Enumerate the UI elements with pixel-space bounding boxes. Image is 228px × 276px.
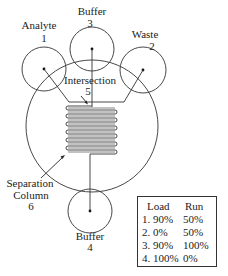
label-separation: Separation xyxy=(2,178,58,189)
cell-run: 100% xyxy=(183,239,209,252)
serpentine-column xyxy=(66,106,117,211)
label-waste-number: 2 xyxy=(146,41,158,52)
cell-load: 4. 100% xyxy=(142,252,179,265)
label-buffer3-number: 3 xyxy=(80,18,100,29)
table-row: 4. 100% 0% xyxy=(138,252,216,265)
label-buffer3: Buffer xyxy=(67,6,117,17)
header-load: Load xyxy=(147,200,170,213)
cell-load: 3. 90% xyxy=(142,239,173,252)
cell-load: 2. 0% xyxy=(142,226,168,239)
voltage-table: Load Run 1. 90% 50% 2. 0% 50% 3. 90% 100… xyxy=(137,196,217,267)
table-header-row: Load Run xyxy=(138,200,216,213)
table-row: 1. 90% 50% xyxy=(138,213,216,226)
label-analyte: Analyte xyxy=(14,20,64,31)
cell-run: 0% xyxy=(183,252,198,265)
label-buffer4-number: 4 xyxy=(81,242,99,253)
cell-load: 1. 90% xyxy=(142,213,173,226)
label-analyte-number: 1 xyxy=(34,33,54,44)
table-row: 2. 0% 50% xyxy=(138,226,216,239)
label-separation-column-number: 6 xyxy=(22,201,40,212)
label-waste: Waste xyxy=(125,29,165,40)
cell-run: 50% xyxy=(183,226,203,239)
separation-column-arrow xyxy=(41,157,63,178)
cell-run: 50% xyxy=(183,213,203,226)
label-intersection-number: 5 xyxy=(80,86,96,97)
table-row: 3. 90% 100% xyxy=(138,239,216,252)
header-run: Run xyxy=(185,200,203,213)
